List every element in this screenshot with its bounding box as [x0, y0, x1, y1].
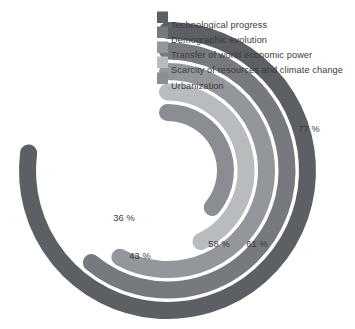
- value-callout-58: 58 %: [208, 239, 229, 249]
- legend-item-transfer-of-world-economic-power[interactable]: Transfer of world economic power: [171, 50, 312, 60]
- legend-item-label: Technological progress: [171, 20, 267, 30]
- legend-item-label: Scarcity of resources and climate change: [171, 65, 343, 75]
- legend-item-technological-progress[interactable]: Technological progress: [171, 20, 267, 30]
- legend-item-label: Urbanization: [171, 81, 224, 91]
- value-callout-43: 43 %: [129, 251, 150, 261]
- chart-canvas: Technological progress Demographic evolu…: [0, 0, 355, 329]
- legend-item-label: Demographic evolution: [171, 35, 267, 45]
- legend-swatch: [157, 73, 168, 85]
- legend-swatch: [157, 12, 168, 24]
- legend-item-label: Transfer of world economic power: [171, 50, 312, 60]
- legend-swatch: [157, 42, 168, 54]
- radial-bar-chart: Technological progress Demographic evolu…: [0, 0, 355, 329]
- legend-swatch: [157, 57, 168, 69]
- legend-item-scarcity-of-resources-and-climate-change[interactable]: Scarcity of resources and climate change: [171, 65, 343, 75]
- legend-item-urbanization[interactable]: Urbanization: [171, 81, 224, 91]
- legend-swatch: [157, 27, 168, 39]
- value-callout-61: 61 %: [246, 239, 267, 249]
- value-callout-77: 77 %: [298, 124, 319, 134]
- legend-item-demographic-evolution[interactable]: Demographic evolution: [171, 35, 267, 45]
- value-callout-36: 36 %: [113, 213, 134, 223]
